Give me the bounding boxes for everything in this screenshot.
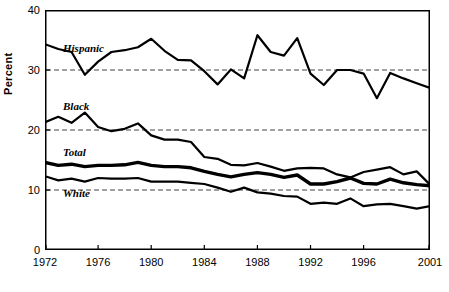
x-tick-label: 1984 bbox=[192, 256, 216, 268]
x-tick-label: 1980 bbox=[139, 256, 163, 268]
x-tick-label: 1988 bbox=[245, 256, 269, 268]
chart-plot-area: 010203040 197219761980198419881992199620… bbox=[45, 10, 430, 250]
series-label-hispanic: Hispanic bbox=[63, 42, 104, 54]
series-line-white bbox=[45, 176, 430, 208]
y-tick-label: 20 bbox=[28, 124, 40, 136]
x-tick-label: 1972 bbox=[33, 256, 57, 268]
series-label-total: Total bbox=[63, 146, 86, 158]
series-label-black: Black bbox=[63, 100, 89, 112]
y-tick-label: 40 bbox=[28, 4, 40, 16]
y-axis-title: Percent bbox=[2, 53, 14, 95]
y-tick-label: 30 bbox=[28, 64, 40, 76]
series-label-white: White bbox=[63, 187, 90, 199]
x-tick-label: 1996 bbox=[351, 256, 375, 268]
series-line-black bbox=[45, 113, 430, 185]
x-tick-label: 2001 bbox=[418, 256, 442, 268]
y-tick-label: 10 bbox=[28, 184, 40, 196]
x-tick-label: 1976 bbox=[86, 256, 110, 268]
chart-figure: Percent 010203040 1972197619801984198819… bbox=[0, 0, 449, 292]
y-tick-label: 0 bbox=[34, 244, 40, 256]
x-tick-label: 1992 bbox=[298, 256, 322, 268]
